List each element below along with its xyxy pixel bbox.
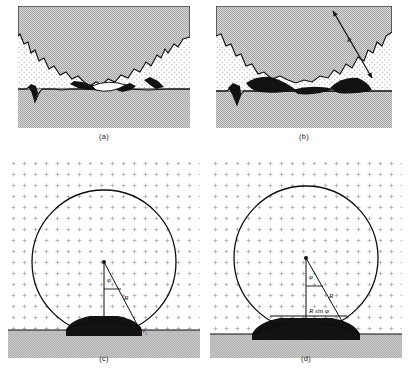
radius-R-label: R [328,292,334,300]
panel-b-caption: (b) [216,132,392,141]
figure-root: (a) [0,0,410,381]
panel-d: φ R R sin φ θ d D ri (d) [210,158,402,358]
panel-a-caption: (a) [18,132,190,141]
contact-point [345,328,349,332]
radius-R-label: R [123,294,129,302]
angle-phi-label: φ [107,276,111,284]
panel-c: φ R x d ri (c) [8,158,200,358]
chord-label: R sin φ [308,307,329,315]
panel-a: (a) [18,6,190,128]
angle-phi-label: φ [309,273,313,281]
panel-b: R (b) [216,6,392,128]
contact-point [137,326,141,330]
substrate-region [18,89,190,128]
base-d-label: d [95,330,99,338]
angle-theta-label: θ [276,324,280,332]
substrate-region [216,91,392,128]
panel-b-art: R [216,6,392,128]
panel-a-art [18,6,190,128]
base-d-label: d [298,322,302,330]
panel-d-caption: (d) [210,354,402,363]
panel-c-art: φ R x d ri [8,158,200,358]
base-D-label: D [297,332,303,340]
radius-arrow-label: R [346,36,352,44]
panel-d-svg: φ R R sin φ θ d D ri [210,158,402,358]
panel-c-caption: (c) [8,354,200,363]
panel-d-art: φ R R sin φ θ d D ri [210,158,402,358]
panel-a-svg [18,6,190,128]
panel-c-svg: φ R x d ri [8,158,200,358]
panel-b-svg: R [216,6,392,128]
